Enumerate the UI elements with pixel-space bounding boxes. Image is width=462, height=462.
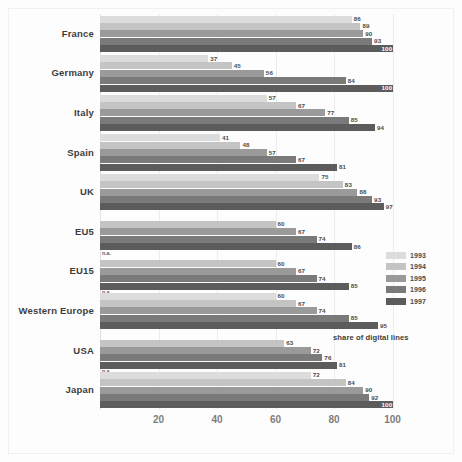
bar[interactable] [100,149,267,156]
bar[interactable] [100,236,317,243]
bar[interactable] [100,362,337,369]
bar[interactable] [100,340,284,347]
bar-value-label: 67 [298,228,305,235]
bar-value-label: 100 [382,45,393,52]
bar[interactable] [100,307,317,314]
bar-value-label: 85 [351,282,358,289]
bar-value-label: 86 [354,243,361,250]
bar[interactable] [100,55,208,62]
bar[interactable] [100,117,349,124]
bar-group: 4148576781 [100,133,416,173]
bar[interactable] [100,164,337,171]
bar-value-label: 48 [242,141,249,148]
bar-value-label: 37 [210,55,217,62]
plot-area: 8689909310037455684100576777859441485767… [100,14,416,410]
bar[interactable] [100,45,393,52]
category-label: Germany [51,67,94,78]
chart-legend: 19931994199519961997 [386,250,450,308]
bar[interactable] [100,174,319,181]
bar[interactable] [100,124,375,131]
bar[interactable] [100,38,372,45]
bar-value-label: 84 [348,77,355,84]
bar[interactable] [100,189,357,196]
bar[interactable] [100,23,360,30]
bar-value-label: 86 [354,15,361,22]
legend-item[interactable]: 1995 [386,273,450,283]
bar-group: 86899093100 [100,14,416,54]
bar[interactable] [100,16,352,23]
bar[interactable] [100,95,267,102]
bar-value-label: 94 [377,124,384,131]
legend-item[interactable]: 1996 [386,285,450,295]
legend-item[interactable]: 1993 [386,250,450,260]
bar[interactable] [100,322,378,329]
bar-group: n.a.60677485 [100,252,416,292]
x-tick-label: 100 [384,414,401,425]
category-labels: FranceGermanyItalySpainUKEU5EU15Western … [0,14,94,410]
bar[interactable] [100,401,393,408]
bar[interactable] [100,85,393,92]
bar-value-label: 89 [362,22,369,29]
bar-value-label: 83 [345,181,352,188]
category-label: UK [80,186,94,197]
bar-value-label: 95 [380,322,387,329]
bar-value-label: 41 [222,134,229,141]
legend-swatch [386,286,406,293]
bar-value-label: 76 [324,354,331,361]
bar-value-label: 60 [278,260,285,267]
bar[interactable] [100,354,322,361]
bar[interactable] [100,142,240,149]
bar[interactable] [100,134,220,141]
bar-group: 6067748595 [100,291,416,331]
bar[interactable] [100,394,369,401]
bar[interactable] [100,387,363,394]
bar[interactable] [100,315,349,322]
x-tick-label: 20 [153,414,164,425]
bar[interactable] [100,260,276,267]
bar[interactable] [100,62,232,69]
legend-swatch [386,263,406,270]
bar[interactable] [100,221,276,228]
bar[interactable] [100,347,311,354]
bar[interactable] [100,196,372,203]
bar[interactable] [100,300,296,307]
bar[interactable] [100,181,343,188]
bar[interactable] [100,293,276,300]
bar[interactable] [100,275,317,282]
bar[interactable] [100,228,296,235]
bar-value-label: 100 [382,401,393,408]
bar[interactable] [100,30,363,37]
x-axis-ticks: 20406080100 [100,414,416,434]
bar-value-label: 88 [359,188,366,195]
bar-group: 7583889397 [100,172,416,212]
bar[interactable] [100,77,346,84]
legend-item[interactable]: 1994 [386,262,450,272]
chart-root: FranceGermanyItalySpainUKEU5EU15Western … [0,0,462,462]
bar[interactable] [100,102,296,109]
legend-swatch [386,275,406,282]
bar-value-label: 85 [351,116,358,123]
bar-value-label: 67 [298,156,305,163]
bar-value-label: 67 [298,300,305,307]
bar[interactable] [100,70,264,77]
bar[interactable] [100,283,349,290]
bar-value-label: 60 [278,220,285,227]
bar[interactable] [100,268,296,275]
bar-value-label: 57 [269,94,276,101]
bar-value-label: 97 [386,203,393,210]
category-label: France [62,28,94,39]
bar[interactable] [100,156,296,163]
bar[interactable] [100,203,384,210]
bar-group: 72849092100 [100,370,416,410]
bar[interactable] [100,372,311,379]
bar-value-label: 81 [339,163,346,170]
legend-label: 1995 [410,275,426,282]
chart-annotation: share of digital lines [333,333,409,342]
bar[interactable] [100,243,352,250]
legend-item[interactable]: 1997 [386,296,450,306]
x-tick-label: 80 [329,414,340,425]
bar-value-label: 77 [327,109,334,116]
bar[interactable] [100,109,325,116]
category-label: EU5 [75,226,94,237]
bar[interactable] [100,379,346,386]
